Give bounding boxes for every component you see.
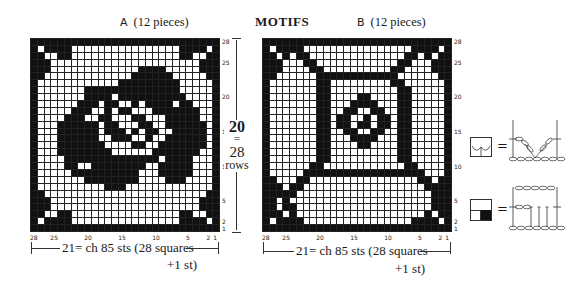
filled-block-cell xyxy=(126,94,132,100)
filled-block-cell xyxy=(173,163,179,169)
filled-block-cell xyxy=(200,198,206,204)
open-mesh-cell xyxy=(337,129,343,135)
column-number: 25 xyxy=(50,234,58,241)
open-mesh-cell xyxy=(371,115,377,121)
filled-block-cell xyxy=(290,191,296,197)
filled-block-cell xyxy=(418,170,424,176)
open-mesh-cell xyxy=(112,191,118,197)
open-mesh-cell xyxy=(283,156,289,162)
filled-block-cell xyxy=(445,101,451,107)
filled-block-cell xyxy=(159,163,165,169)
filled-block-cell xyxy=(445,191,451,197)
open-mesh-cell xyxy=(92,108,98,114)
open-mesh-cell xyxy=(358,67,364,73)
filled-block-cell xyxy=(65,39,71,45)
open-mesh-cell xyxy=(112,211,118,217)
filled-block-cell xyxy=(72,115,78,121)
filled-block-cell xyxy=(85,94,91,100)
filled-block-cell xyxy=(331,225,337,231)
open-mesh-cell xyxy=(412,80,418,86)
column-number: 28 xyxy=(30,234,38,241)
open-mesh-cell xyxy=(337,204,343,210)
open-mesh-cell xyxy=(193,204,199,210)
filled-block-cell xyxy=(180,225,186,231)
filled-block-cell xyxy=(270,60,276,66)
filled-block-cell xyxy=(207,67,213,73)
height-cm: 20 xyxy=(224,120,250,133)
filled-block-cell xyxy=(153,67,159,73)
open-mesh-cell xyxy=(126,198,132,204)
open-mesh-cell xyxy=(391,108,397,114)
open-mesh-cell xyxy=(358,163,364,169)
filled-block-cell xyxy=(432,39,438,45)
filled-block-cell xyxy=(385,39,391,45)
filled-block-cell xyxy=(38,198,44,204)
filled-block-cell xyxy=(304,170,310,176)
open-mesh-cell xyxy=(159,218,165,224)
filled-block-cell xyxy=(65,115,71,121)
filled-block-cell xyxy=(31,122,37,128)
column-number: 1 xyxy=(445,234,449,241)
filled-block-cell xyxy=(371,135,377,141)
filled-block-cell xyxy=(439,53,445,59)
filled-block-cell xyxy=(317,87,323,93)
filled-block-cell xyxy=(290,39,296,45)
filled-block-cell xyxy=(270,198,276,204)
open-mesh-cell xyxy=(193,73,199,79)
open-mesh-cell xyxy=(337,80,343,86)
filled-block-cell xyxy=(38,60,44,66)
open-mesh-cell xyxy=(153,204,159,210)
open-mesh-cell xyxy=(364,129,370,135)
filled-block-cell xyxy=(317,129,323,135)
open-mesh-cell xyxy=(432,211,438,217)
open-mesh-cell xyxy=(364,67,370,73)
filled-block-cell xyxy=(166,101,172,107)
filled-block-cell xyxy=(317,225,323,231)
open-mesh-cell xyxy=(310,184,316,190)
filled-block-cell xyxy=(31,177,37,183)
filled-block-cell xyxy=(371,101,377,107)
filled-block-cell xyxy=(213,94,219,100)
open-mesh-cell xyxy=(146,191,152,197)
open-mesh-cell xyxy=(412,108,418,114)
open-mesh-cell xyxy=(324,67,330,73)
filled-block-cell xyxy=(132,142,138,148)
open-mesh-cell xyxy=(207,149,213,155)
filled-block-cell xyxy=(364,135,370,141)
open-mesh-cell xyxy=(58,184,64,190)
filled-block-cell xyxy=(277,218,283,224)
filled-block-cell xyxy=(146,129,152,135)
open-mesh-cell xyxy=(418,53,424,59)
open-mesh-cell xyxy=(371,46,377,52)
open-mesh-cell xyxy=(412,211,418,217)
open-mesh-cell xyxy=(92,80,98,86)
open-mesh-cell xyxy=(439,163,445,169)
filled-block-cell xyxy=(193,142,199,148)
filled-block-cell xyxy=(263,73,269,79)
open-mesh-cell xyxy=(317,218,323,224)
open-mesh-cell xyxy=(425,87,431,93)
open-mesh-cell xyxy=(391,46,397,52)
filled-block-cell xyxy=(139,80,145,86)
filled-block-cell xyxy=(297,46,303,52)
open-mesh-cell xyxy=(398,198,404,204)
filled-block-cell xyxy=(213,198,219,204)
filled-block-cell xyxy=(200,225,206,231)
filled-block-cell xyxy=(439,39,445,45)
open-mesh-cell xyxy=(153,142,159,148)
open-mesh-cell xyxy=(405,177,411,183)
open-mesh-cell xyxy=(105,198,111,204)
open-mesh-cell xyxy=(297,60,303,66)
open-mesh-cell xyxy=(324,204,330,210)
filled-block-cell xyxy=(213,129,219,135)
filled-block-cell xyxy=(153,108,159,114)
open-mesh-cell xyxy=(92,191,98,197)
filled-block-cell xyxy=(344,39,350,45)
filled-block-cell xyxy=(425,177,431,183)
filled-block-cell xyxy=(445,39,451,45)
filled-block-cell xyxy=(173,108,179,114)
open-mesh-cell xyxy=(310,149,316,155)
open-mesh-cell xyxy=(85,191,91,197)
filled-block-cell xyxy=(200,142,206,148)
open-mesh-cell xyxy=(72,218,78,224)
